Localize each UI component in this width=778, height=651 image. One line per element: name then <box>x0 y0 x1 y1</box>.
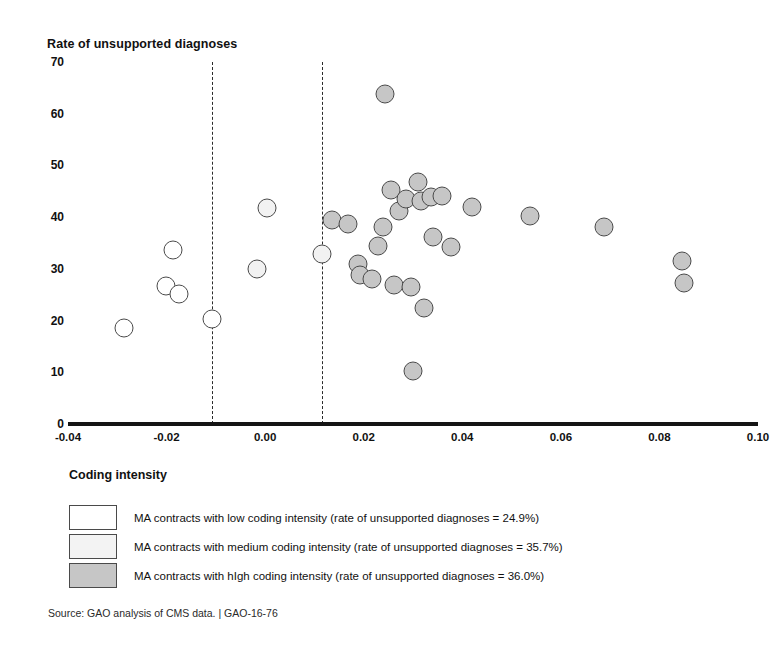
x-axis-tick-label: 0.00 <box>254 431 276 443</box>
x-axis-tick-label: 0.04 <box>451 431 473 443</box>
legend-swatch-low <box>69 505 117 530</box>
data-point-high <box>673 252 692 271</box>
legend-item-label: MA contracts with low coding intensity (… <box>134 512 539 524</box>
y-axis-tick-label: 70 <box>38 55 64 69</box>
data-point-high <box>594 218 613 237</box>
y-axis-tick-label: 20 <box>38 314 64 328</box>
data-point-high <box>674 274 693 293</box>
data-point-high <box>368 236 387 255</box>
data-point-low <box>164 240 183 259</box>
legend-swatch-high <box>69 563 117 588</box>
x-axis-tick-label: -0.02 <box>153 431 179 443</box>
y-axis-tick-label: 0 <box>38 417 64 431</box>
y-axis-tick-label: 50 <box>38 158 64 172</box>
x-axis-tick-label: 0.02 <box>353 431 375 443</box>
legend-item-low[interactable]: MA contracts with low coding intensity (… <box>69 503 709 532</box>
data-point-high <box>376 84 395 103</box>
plot-area <box>68 62 758 424</box>
legend-item-medium[interactable]: MA contracts with medium coding intensit… <box>69 532 709 561</box>
y-axis-tick-label: 40 <box>38 210 64 224</box>
data-point-high <box>463 198 482 217</box>
y-axis-tick-labels: 010203040506070 <box>38 0 64 651</box>
data-point-high <box>401 278 420 297</box>
data-point-high <box>373 217 392 236</box>
data-point-high <box>404 362 423 381</box>
data-point-high <box>362 269 381 288</box>
data-point-low <box>203 310 222 329</box>
scatter-plot-figure: Rate of unsupported diagnoses 0102030405… <box>0 0 778 651</box>
data-point-high <box>441 237 460 256</box>
x-axis-line <box>68 422 758 426</box>
data-point-high <box>414 298 433 317</box>
legend-swatch-medium <box>69 534 117 559</box>
data-point-medium <box>258 198 277 217</box>
x-axis-tick-label: -0.04 <box>55 431 81 443</box>
data-point-medium <box>248 259 267 278</box>
x-axis-tick-label: 0.08 <box>648 431 670 443</box>
y-axis-title: Rate of unsupported diagnoses <box>47 37 237 51</box>
legend-item-label: MA contracts with hIgh coding intensity … <box>134 570 544 582</box>
data-point-low <box>169 284 188 303</box>
data-point-low <box>115 318 134 337</box>
data-point-high <box>423 227 442 246</box>
legend-title: Coding intensity <box>69 468 167 482</box>
source-note: Source: GAO analysis of CMS data. | GAO-… <box>48 607 278 619</box>
x-axis-tick-label: 0.06 <box>550 431 572 443</box>
y-axis-tick-label: 10 <box>38 365 64 379</box>
legend: MA contracts with low coding intensity (… <box>69 503 709 590</box>
legend-item-high[interactable]: MA contracts with hIgh coding intensity … <box>69 561 709 590</box>
x-axis-tick-label: 0.10 <box>747 431 769 443</box>
data-point-medium <box>312 245 331 264</box>
y-axis-tick-label: 30 <box>38 262 64 276</box>
data-point-high <box>338 214 357 233</box>
y-axis-tick-label: 60 <box>38 107 64 121</box>
data-point-high <box>432 187 451 206</box>
legend-item-label: MA contracts with medium coding intensit… <box>134 541 563 553</box>
data-point-high <box>520 206 539 225</box>
